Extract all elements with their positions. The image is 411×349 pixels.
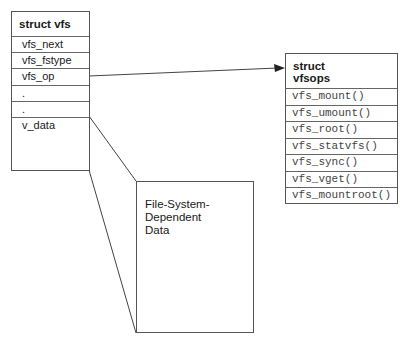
struct-vfsops-title-line2: vfsops: [293, 72, 330, 85]
field-vfs-fstype: vfs_fstype: [12, 52, 89, 68]
struct-vfs-box: struct vfs vfs_next vfs_fstype vfs_op . …: [11, 11, 90, 171]
func-vfs-sync: vfs_sync(): [286, 154, 397, 171]
field-ellipsis-2: .: [12, 101, 89, 117]
field-vfs-op: vfs_op: [12, 68, 89, 85]
fs-dependent-data-label: File-System- Dependent Data: [145, 198, 210, 237]
func-vfs-statvfs: vfs_statvfs(): [286, 138, 397, 154]
func-vfs-mount: vfs_mount(): [286, 88, 397, 105]
fs-dependent-data-box: File-System- Dependent Data: [136, 181, 254, 333]
func-vfs-vget: vfs_vget(): [286, 171, 397, 187]
func-vfs-umount: vfs_umount(): [286, 105, 397, 121]
func-vfs-root: vfs_root(): [286, 121, 397, 138]
vfs-op-arrow-line: [89, 68, 278, 76]
arrowhead-icon: [274, 64, 285, 72]
field-v-data: v_data: [12, 117, 89, 171]
struct-vfs-title: struct vfs: [19, 18, 71, 31]
field-ellipsis-1: .: [12, 85, 89, 101]
func-vfs-mountroot: vfs_mountroot(): [286, 187, 397, 203]
v-data-upper-line: [89, 116, 136, 181]
field-vfs-next: vfs_next: [12, 36, 89, 52]
v-data-lower-line: [89, 170, 136, 333]
struct-vfsops-box: struct vfsops vfs_mount() vfs_umount() v…: [285, 53, 398, 204]
